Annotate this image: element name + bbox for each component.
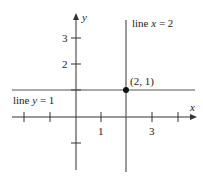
point-label: (2, 1) [130, 75, 154, 88]
intersection-point [123, 87, 129, 93]
coordinate-plane: x y 1 3 3 2 line y = 1 line x = 2 (2, 1) [0, 0, 203, 183]
x-axis-label: x [189, 101, 195, 113]
y-tick-label-2: 2 [62, 58, 68, 70]
y-axis-label: y [81, 11, 87, 23]
x-axis-arrow-icon [190, 114, 197, 120]
horizontal-line-label: line y = 1 [13, 94, 54, 106]
x-tick-label-3: 3 [149, 125, 155, 137]
vertical-line-label: line x = 2 [132, 17, 173, 29]
x-tick-label-1: 1 [98, 125, 104, 137]
y-axis-arrow-icon [73, 13, 79, 20]
y-tick-label-3: 3 [62, 32, 68, 44]
